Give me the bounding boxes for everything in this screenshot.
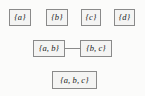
node-singleton-d: {d} [114,9,135,26]
node-label: {a} [14,13,25,22]
node-label: {b} [51,13,62,22]
node-label: {b, c} [86,44,106,53]
node-singleton-c: {c} [81,9,101,26]
node-label: {d} [119,13,130,22]
edge-ab-to-bc [65,48,80,49]
node-triple-abc: {a, b, c} [52,71,97,89]
node-label: {a, b} [39,44,59,53]
node-singleton-b: {b} [46,9,68,26]
node-pair-ab: {a, b} [33,40,65,57]
set-lattice-diagram: {a} {b} {c} {d} {a, b} {b, c} {a, b, c} [0,0,145,96]
node-label: {c} [86,13,97,22]
node-pair-bc: {b, c} [80,40,112,57]
node-singleton-a: {a} [9,9,31,26]
node-label: {a, b, c} [60,76,88,85]
